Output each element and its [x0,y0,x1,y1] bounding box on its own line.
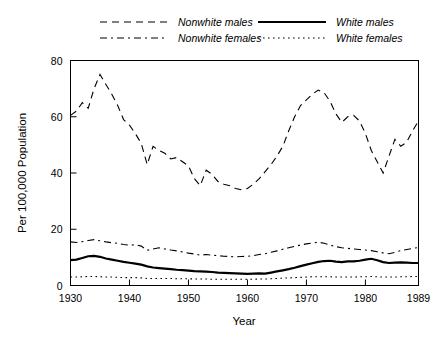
x-tick-label-1950: 1950 [177,292,201,304]
series-group [71,75,419,280]
chart-container: Nonwhite males White males Nonwhite fema… [0,0,436,337]
series-line-nonwhite-females [71,240,419,257]
line-chart: Nonwhite males White males Nonwhite fema… [0,0,436,337]
legend-label-white-females: White females [336,32,403,44]
legend-label-nonwhite-females: Nonwhite females [178,32,262,44]
x-axis-title: Year [232,315,255,327]
x-axis: 1930194019501960197019801989 [59,280,431,304]
x-tick-label-1980: 1980 [354,292,378,304]
x-tick-label-1930: 1930 [59,292,83,304]
x-tick-label-1989: 1989 [407,292,431,304]
y-tick-label-80: 80 [51,55,63,67]
legend-label-white-males: White males [336,16,395,28]
y-axis-title: Per 100,000 Population [16,113,28,233]
y-tick-label-60: 60 [51,111,63,123]
y-axis: 020406080 [51,55,77,292]
chart-legend: Nonwhite males White males Nonwhite fema… [100,16,403,44]
x-tick-label-1940: 1940 [118,292,142,304]
legend-label-nonwhite-males: Nonwhite males [178,16,253,28]
x-tick-label-1960: 1960 [236,292,260,304]
x-tick-label-1970: 1970 [295,292,319,304]
series-line-white-males [71,256,419,274]
y-tick-label-0: 0 [57,280,63,292]
series-line-white-females [71,277,419,280]
plot-frame [71,61,419,286]
series-line-nonwhite-males [71,75,419,190]
y-tick-label-20: 20 [51,223,63,235]
y-tick-label-40: 40 [51,167,63,179]
